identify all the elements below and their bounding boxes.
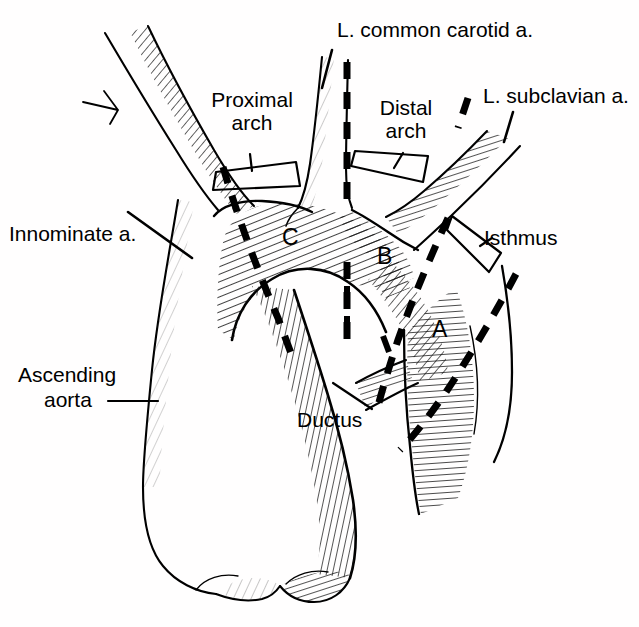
distal-arch-bracket — [351, 151, 428, 182]
descending-aorta-right-border — [494, 266, 512, 462]
aortic-root-shading — [280, 571, 352, 602]
ductus-shading — [356, 360, 412, 410]
distal-dash-fragment — [383, 336, 389, 352]
segment-marker-c: C — [282, 224, 299, 251]
label-proximal-arch-line1: Proximal — [197, 88, 307, 111]
label-ascending-aorta-line1: Ascending — [18, 363, 116, 386]
label-isthmus: Isthmus — [484, 226, 558, 249]
label-innominate: Innominate a. — [9, 222, 136, 245]
aortic-root-shading-2 — [218, 578, 280, 600]
ascending-aorta-shading — [252, 286, 356, 578]
label-common-carotid: L. common carotid a. — [337, 18, 533, 41]
subclavian-leader — [504, 112, 513, 142]
carotid-stipple — [298, 57, 334, 212]
label-ductus: Ductus — [297, 408, 362, 431]
aortic-arch-figure: L. common carotid a. L. subclavian a. In… — [0, 0, 639, 627]
label-proximal-arch-line2: arch — [197, 111, 307, 134]
segment-marker-a: A — [432, 316, 447, 343]
distal-arch-bracket-stem — [394, 153, 403, 168]
label-subclavian: L. subclavian a. — [483, 84, 629, 107]
label-distal-arch-line2: arch — [367, 119, 445, 142]
label-ascending-aorta-line2: aorta — [44, 388, 92, 411]
label-distal-arch-line1: Distal — [367, 96, 445, 119]
segment-marker-b: B — [377, 243, 392, 270]
ascending-left-stipple — [143, 200, 194, 487]
innominate-branch-tick — [83, 91, 118, 124]
vessel-shading — [130, 26, 508, 602]
